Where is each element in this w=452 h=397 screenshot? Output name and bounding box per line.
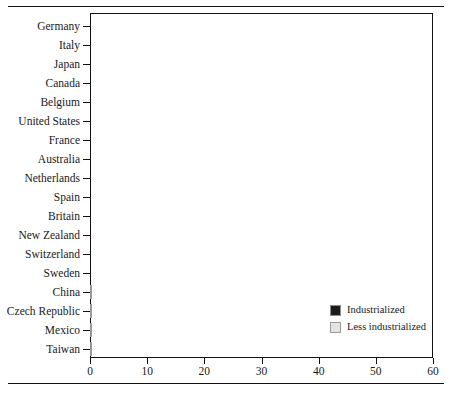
y-tick: [83, 330, 90, 331]
y-tick-label-netherlands: Netherlands: [24, 169, 80, 187]
legend-item-less-industrialized: Less industrialized: [330, 320, 426, 334]
legend-swatch-less-industrialized-icon: [330, 322, 341, 333]
legend: Industrialized Less industrialized: [330, 303, 426, 337]
x-tick: [376, 358, 377, 364]
figure: GermanyItalyJapanCanadaBelgiumUnited Sta…: [0, 0, 452, 397]
bar-united-states: [90, 114, 316, 128]
y-tick-label-spain: Spain: [54, 188, 80, 206]
y-tick-label-japan: Japan: [54, 55, 80, 73]
bar-germany: [90, 19, 416, 33]
y-tick-label-czech-republic: Czech Republic: [7, 302, 80, 320]
x-tick-label-40: 40: [299, 365, 339, 377]
legend-item-industrialized: Industrialized: [330, 303, 426, 317]
bar-japan: [90, 57, 376, 71]
y-tick-label-sweden: Sweden: [44, 264, 80, 282]
y-tick: [83, 311, 90, 312]
y-tick: [83, 102, 90, 103]
y-tick: [83, 64, 90, 65]
x-tick-label-0: 0: [70, 365, 110, 377]
y-tick: [83, 83, 90, 84]
x-tick-label-10: 10: [127, 365, 167, 377]
y-tick-label-china: China: [53, 283, 80, 301]
y-tick-label-new-zealand: New Zealand: [18, 226, 80, 244]
bar-spain: [90, 190, 287, 204]
y-tick: [83, 349, 90, 350]
y-tick-label-canada: Canada: [46, 74, 80, 92]
x-tick: [433, 358, 434, 364]
y-tick: [83, 197, 90, 198]
bar-taiwan: [90, 342, 232, 356]
bar-france: [90, 133, 304, 147]
x-tick-label-20: 20: [184, 365, 224, 377]
y-tick: [83, 159, 90, 160]
y-tick: [83, 235, 90, 236]
y-tick-label-mexico: Mexico: [45, 321, 80, 339]
bar-australia: [90, 152, 299, 166]
bar-czech-republic: [90, 304, 310, 318]
y-tick: [83, 178, 90, 179]
bar-fill: [90, 342, 92, 356]
y-tick: [83, 45, 90, 46]
y-tick-label-australia: Australia: [38, 150, 80, 168]
y-tick-label-switzerland: Switzerland: [25, 245, 80, 263]
legend-label-industrialized: Industrialized: [347, 303, 405, 317]
y-tick: [83, 121, 90, 122]
y-tick-label-germany: Germany: [37, 17, 80, 35]
bar-fill: [90, 304, 92, 318]
x-tick: [262, 358, 263, 364]
x-tick-label-50: 50: [356, 365, 396, 377]
bar-switzerland: [90, 247, 259, 261]
y-tick-label-united-states: United States: [18, 112, 80, 130]
bar-belgium: [90, 95, 316, 109]
top-rule: [8, 6, 444, 7]
bar-sweden: [90, 266, 250, 280]
y-tick: [83, 273, 90, 274]
x-tick-label-30: 30: [242, 365, 282, 377]
y-tick: [83, 140, 90, 141]
bar-china: [90, 285, 259, 299]
bar-new-zealand: [90, 228, 282, 242]
y-tick-label-belgium: Belgium: [40, 93, 80, 111]
bar-fill: [90, 285, 92, 299]
y-tick-label-britain: Britain: [48, 207, 80, 225]
bottom-rule: [8, 383, 444, 384]
x-tick: [319, 358, 320, 364]
bar-italy: [90, 38, 393, 52]
y-tick: [83, 26, 90, 27]
x-tick: [204, 358, 205, 364]
x-tick: [90, 358, 91, 364]
bar-britain: [90, 209, 282, 223]
legend-label-less-industrialized: Less industrialized: [347, 320, 426, 334]
legend-swatch-industrialized-icon: [330, 305, 341, 316]
bar-fill: [90, 323, 92, 337]
y-tick-label-italy: Italy: [59, 36, 80, 54]
y-tick-label-taiwan: Taiwan: [46, 340, 80, 358]
y-tick: [83, 254, 90, 255]
x-tick: [147, 358, 148, 364]
x-tick-label-60: 60: [413, 365, 452, 377]
y-tick: [83, 216, 90, 217]
bar-netherlands: [90, 171, 296, 185]
y-tick-label-france: France: [49, 131, 80, 149]
y-tick: [83, 292, 90, 293]
bar-canada: [90, 76, 342, 90]
bar-mexico: [90, 323, 282, 337]
